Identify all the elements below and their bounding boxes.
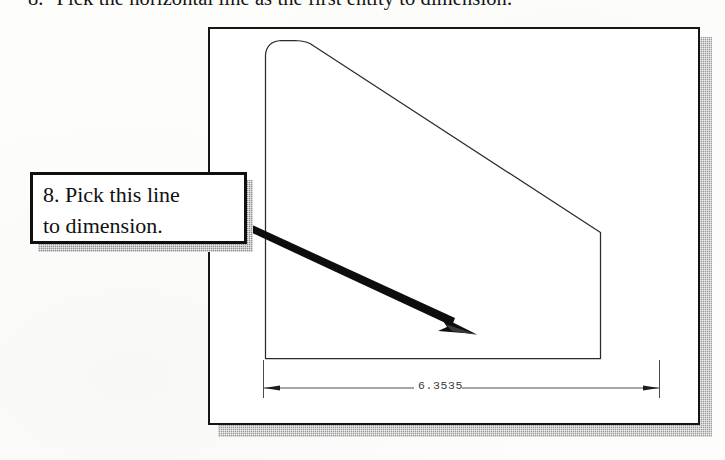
heading-step-text: Pick the horizontal line as the first en…: [57, 0, 513, 9]
cad-window-frame: [208, 27, 700, 425]
heading-line: 8.Pick the horizontal line as the first …: [0, 0, 725, 13]
callout-box: 8. Pick this line to dimension.: [30, 172, 247, 244]
heading-text-row: 8.Pick the horizontal line as the first …: [28, 0, 512, 10]
callout-line-1: 8. Pick this line: [43, 179, 244, 210]
dimension-value-label: 6.3535: [418, 379, 463, 392]
figure-page: 8.Pick the horizontal line as the first …: [0, 0, 725, 460]
heading-step-number: 8.: [28, 0, 44, 9]
callout-line-2: to dimension.: [43, 210, 244, 241]
